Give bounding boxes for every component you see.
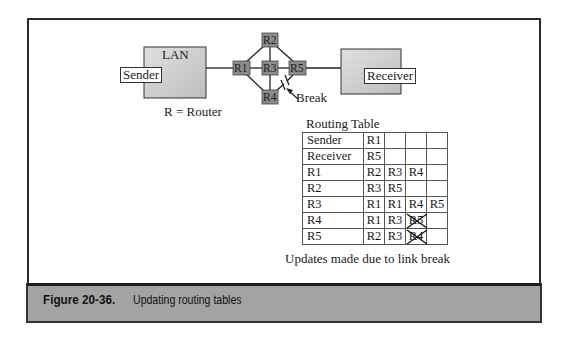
hop-cell: R1 [364,213,385,229]
router-r4-label: R4 [263,90,276,104]
hop-cell: R3 [385,213,406,229]
hop-cell [385,133,406,149]
hop-cell [427,149,448,165]
row-name: R1 [303,165,364,181]
hop-cell: R1 [385,197,406,213]
figure-title: Updating routing tables [133,293,242,307]
hop-cell: R3 [364,181,385,197]
hop-cell: R3 [385,165,406,181]
table-row: Receiver R5 [303,149,448,165]
router-r5-label: R5 [290,61,303,75]
cross-out-icon [406,229,428,245]
router-r2-label: R2 [263,33,276,47]
table-row: Sender R1 [303,133,448,149]
router-r3-label: R3 [263,61,276,75]
hop-cell [406,149,427,165]
row-name: R3 [303,197,364,213]
hop-cell: R5 [427,197,448,213]
break-label: Break [296,90,327,106]
table-row: R1 R2 R3 R4 [303,165,448,181]
hop-cell: R5 [364,149,385,165]
figure-number: Figure 20-36. [43,292,115,307]
hop-cell: R3 [385,229,406,245]
cross-out-icon [406,213,428,229]
table-row: R3 R1 R1 R4 R5 [303,197,448,213]
hop-cell: R4 [406,197,427,213]
row-name: Sender [303,133,364,149]
hop-cell: R2 [364,229,385,245]
hop-cell [427,213,448,229]
figure-caption-banner: Figure 20-36. Updating routing tables [26,283,542,323]
hop-cell: R1 [364,133,385,149]
hop-cell [427,133,448,149]
hop-cell [406,133,427,149]
hop-cell [406,181,427,197]
router-legend: R = Router [164,104,222,120]
table-caption: Updates made due to link break [285,251,450,267]
routing-table-title: Routing Table [306,116,380,132]
hop-cell: R5 [385,181,406,197]
table-row: R2 R3 R5 [303,181,448,197]
sender-label: Sender [120,67,162,83]
router-r1-label: R1 [234,61,247,75]
hop-cell [427,229,448,245]
hop-cell: R2 [364,165,385,181]
crossed-hop-cell: R5 [406,213,427,229]
row-name: R4 [303,213,364,229]
hop-cell [385,149,406,165]
hop-cell: R4 [406,165,427,181]
hop-cell [427,181,448,197]
row-name: R2 [303,181,364,197]
row-name: Receiver [303,149,364,165]
crossed-hop-cell: R4 [406,229,427,245]
table-row: R4 R1 R3 R5 [303,213,448,229]
row-name: R5 [303,229,364,245]
hop-cell [427,165,448,181]
lan-label: LAN [162,47,189,63]
receiver-label: Receiver [364,68,416,84]
hop-cell: R1 [364,197,385,213]
routing-table: Sender R1 Receiver R5 R1 R2 R3 R4 R2 R3 … [302,132,448,245]
table-row: R5 R2 R3 R4 [303,229,448,245]
